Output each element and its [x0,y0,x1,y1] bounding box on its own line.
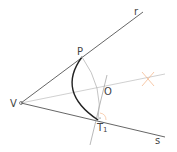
label-p: P [77,46,83,57]
right-angle-mark [100,113,106,120]
bisector-mark [142,72,154,86]
label-t1: T1 [96,122,108,134]
label-s: s [155,135,160,146]
label-v: V [10,98,17,109]
label-t-sub: 1 [103,126,107,134]
construction-arc [82,57,99,120]
label-o: O [104,86,112,97]
right-angle-dot [99,117,100,118]
geometry-diagram: V r s P O T1 [0,0,177,152]
bisector-line [21,74,165,103]
